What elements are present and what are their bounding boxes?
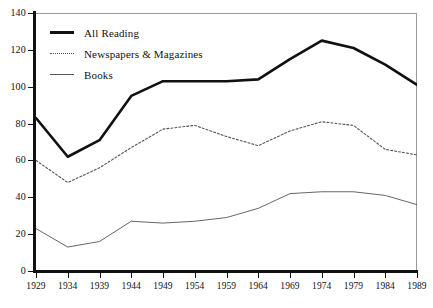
legend-label-newspapers-magazines: Newspapers & Magazines: [84, 48, 203, 60]
y-axis-tick-label: 140: [0, 8, 26, 18]
x-axis-tick-label: 1954: [185, 281, 204, 291]
x-axis-tick: [131, 273, 132, 278]
legend-swatch-solid-thick-icon: [50, 28, 74, 38]
x-axis-tick-label: 1964: [249, 281, 268, 291]
x-axis-tick: [354, 273, 355, 278]
x-axis-tick-label: 1944: [122, 281, 141, 291]
x-axis-tick: [100, 273, 101, 278]
x-axis-tick: [322, 273, 323, 278]
x-axis-tick: [417, 273, 418, 278]
x-axis-tick: [227, 273, 228, 278]
legend-item-all-reading: All Reading: [50, 22, 250, 43]
y-axis-tick: [28, 50, 34, 51]
x-axis-tick-label: 1939: [90, 281, 109, 291]
x-axis-tick-label: 1934: [58, 281, 77, 291]
y-axis-tick-label: 20: [0, 229, 26, 239]
x-axis-tick: [195, 273, 196, 278]
x-axis-tick-label: 1949: [153, 281, 172, 291]
y-axis-tick: [28, 197, 34, 198]
series-line-newspapers-magazines: [36, 122, 417, 183]
x-axis-tick: [258, 273, 259, 278]
x-axis-tick: [163, 273, 164, 278]
x-axis-tick-label: 1929: [26, 281, 45, 291]
legend-swatch-solid-thin-icon: [50, 70, 74, 80]
y-axis-tick: [28, 87, 34, 88]
x-axis-tick-label: 1969: [280, 281, 299, 291]
y-axis-tick: [28, 13, 34, 14]
line-chart: 020406080100120140 192919341939194419491…: [0, 0, 433, 308]
y-axis-tick: [28, 160, 34, 161]
x-axis-tick-label: 1959: [217, 281, 236, 291]
legend-item-books: Books: [50, 64, 250, 85]
y-axis-tick-label: 120: [0, 45, 26, 55]
y-axis-tick: [28, 124, 34, 125]
legend-label-books: Books: [84, 69, 113, 81]
x-axis-tick-label: 1989: [407, 281, 426, 291]
legend-label-all-reading: All Reading: [84, 27, 139, 39]
x-axis-tick-label: 1979: [344, 281, 363, 291]
y-axis-tick: [28, 271, 34, 272]
x-axis-tick: [68, 273, 69, 278]
legend-item-newspapers-magazines: Newspapers & Magazines: [50, 43, 250, 64]
series-line-books: [36, 192, 417, 247]
y-axis-tick-label: 80: [0, 119, 26, 129]
y-axis-tick: [28, 234, 34, 235]
x-axis-tick-label: 1974: [312, 281, 331, 291]
y-axis-tick-label: 100: [0, 82, 26, 92]
y-axis-tick-label: 40: [0, 192, 26, 202]
y-axis-tick-label: 0: [0, 266, 26, 276]
y-axis-tick-label: 60: [0, 155, 26, 165]
legend-swatch-dotted-icon: [50, 49, 74, 59]
x-axis-tick: [385, 273, 386, 278]
chart-legend: All Reading Newspapers & Magazines Books: [50, 22, 250, 85]
x-axis-tick-label: 1984: [376, 281, 395, 291]
x-axis-tick: [36, 273, 37, 278]
x-axis-tick: [290, 273, 291, 278]
